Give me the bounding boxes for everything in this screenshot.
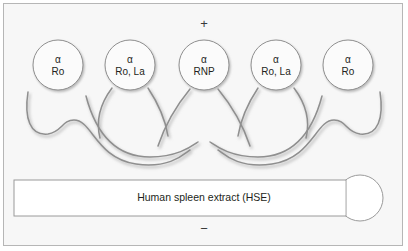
antibody-well-3 xyxy=(179,40,229,90)
antibody-well-5 xyxy=(323,40,373,90)
antibody-well-group xyxy=(33,40,373,90)
cathode-minus-sign: − xyxy=(184,222,224,235)
antibody-well-2 xyxy=(105,40,155,90)
antibody-well-4 xyxy=(251,40,301,90)
arc-inner-right-basin xyxy=(210,96,322,157)
antibody-well-1 xyxy=(33,40,83,90)
precipitin-arc-group xyxy=(27,88,381,165)
substrate-label: Human spleen extract (HSE) xyxy=(14,191,394,203)
arc-circle4-left xyxy=(238,88,258,136)
anode-plus-sign: + xyxy=(184,17,224,30)
arc-rnp-right xyxy=(218,89,250,146)
electrophoresis-diagram: α Ro α Ro, La α RNP α Ro, La α Ro + − Hu… xyxy=(0,0,408,251)
arc-circle4-right xyxy=(294,88,308,138)
diagram-graphics xyxy=(0,0,408,251)
